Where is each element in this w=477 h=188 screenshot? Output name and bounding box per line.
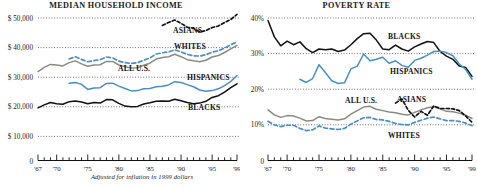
poverty-gridlines xyxy=(268,18,476,125)
series-line-blacks-line xyxy=(268,20,472,76)
xtick-label-1999: '99 xyxy=(233,165,240,172)
xtick-label-1970: '70 xyxy=(283,165,292,172)
xtick-label-1985: '85 xyxy=(146,165,155,172)
xtick-label-1970: '70 xyxy=(53,165,62,172)
ytick-poverty-10: 10% xyxy=(251,121,264,129)
xtick-label-1995: '95 xyxy=(442,165,451,172)
series-label-allus-poverty: ALL U.S. xyxy=(345,96,377,105)
series-label-whites-poverty: WHITES xyxy=(388,131,420,140)
series-label-asians-income: ASIANS xyxy=(173,26,202,35)
xtick-label-1990: '90 xyxy=(411,165,420,172)
ytick-income-30000: $ 30,000 xyxy=(8,74,34,82)
xtick-label-1985: '85 xyxy=(379,165,388,172)
income-chart-svg: $ 50,000 $ 40,000 $ 30,000 $ 20,000 $ 10… xyxy=(0,0,240,188)
series-label-hispanics-income: HISPANICS xyxy=(187,73,230,82)
poverty-data-series xyxy=(268,20,472,130)
xtick-label-1995: '95 xyxy=(208,165,217,172)
series-label-whites-income: WHITES xyxy=(174,42,206,51)
series-label-blacks-income: BLACKS xyxy=(188,103,220,112)
income-x-ticks xyxy=(38,155,237,161)
xtick-label-1980: '80 xyxy=(115,165,124,172)
xtick-label-1975: '75 xyxy=(84,165,93,172)
ytick-poverty-20: 20% xyxy=(251,86,264,94)
chart-panel-poverty-rate: POVERTY RATE 40% 30% 20% 10% 0 '67'70'75… xyxy=(240,0,477,188)
chart-panel-median-household-income: MEDIAN HOUSEHOLD INCOME $ 50,000 $ 40,00… xyxy=(0,0,240,188)
ytick-income-0: 0 xyxy=(29,158,33,166)
income-data-series xyxy=(38,14,237,107)
series-line-whites-line xyxy=(268,117,472,131)
figure-container: MEDIAN HOUSEHOLD INCOME $ 50,000 $ 40,00… xyxy=(0,0,477,188)
ytick-poverty-40: 40% xyxy=(251,15,264,23)
poverty-chart-svg: 40% 30% 20% 10% 0 '67'70'75'80'85'90'95'… xyxy=(240,0,477,188)
series-label-asians-poverty: ASIANS xyxy=(397,95,426,104)
income-footnote: Adjusted for inflation in 1999 dollars xyxy=(62,173,222,180)
xtick-label-1975: '75 xyxy=(315,165,324,172)
xtick-label-1967: '67 xyxy=(34,165,43,172)
xtick-label-1999: '99 xyxy=(468,165,477,172)
ytick-income-50000: $ 50,000 xyxy=(8,15,34,23)
xtick-label-1980: '80 xyxy=(347,165,356,172)
ytick-income-10000: $ 10,000 xyxy=(8,133,34,141)
series-label-allus-income: ALL U.S. xyxy=(118,64,150,73)
income-x-tick-labels: '67'70'75'80'85'90'95'99 xyxy=(34,165,240,172)
xtick-label-1990: '90 xyxy=(177,165,186,172)
poverty-x-tick-labels: '67'70'75'80'85'90'95'99 xyxy=(264,165,477,172)
series-label-blacks-poverty: BLACKS xyxy=(388,32,420,41)
series-label-hispanics-poverty: HISPANICS xyxy=(390,67,433,76)
xtick-label-1967: '67 xyxy=(264,165,273,172)
ytick-income-40000: $ 40,000 xyxy=(8,44,34,52)
ytick-poverty-30: 30% xyxy=(251,50,264,58)
poverty-x-ticks xyxy=(268,155,472,161)
ytick-income-20000: $ 20,000 xyxy=(8,103,34,111)
